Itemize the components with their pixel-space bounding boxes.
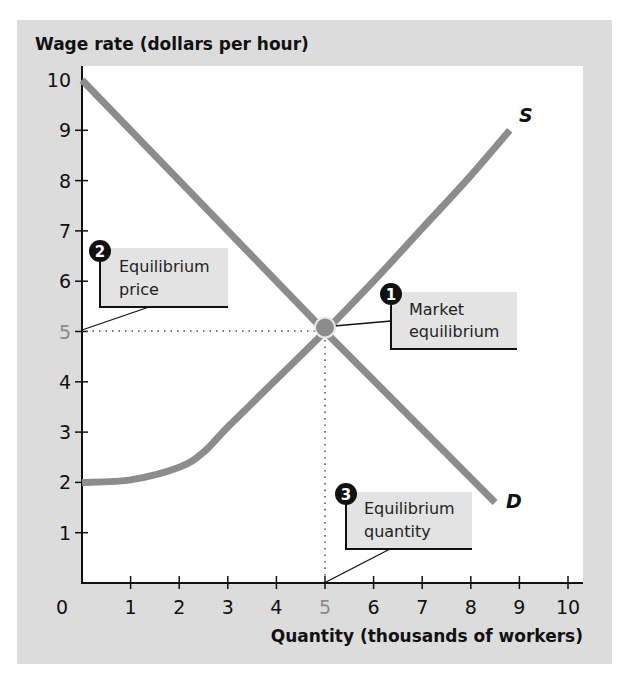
x-tick-label: 8	[465, 596, 477, 618]
y-tick-label: 5	[59, 321, 71, 343]
y-tick-label: 8	[59, 170, 71, 192]
supply-demand-chart: Wage rate (dollars per hour) 12345678910…	[0, 0, 629, 687]
y-tick-label: 2	[59, 471, 71, 493]
y-axis-title: Wage rate (dollars per hour)	[35, 34, 309, 54]
y-tick-label: 1	[59, 522, 71, 544]
y-tick-label: 10	[47, 69, 71, 91]
x-tick-label: 5	[319, 596, 331, 618]
x-tick-label: 9	[513, 596, 525, 618]
demand-curve-label: D	[506, 490, 522, 512]
x-tick-label: 3	[222, 596, 234, 618]
supply-curve-label: S	[519, 104, 533, 126]
callout-text-line1: Market	[409, 300, 464, 319]
callout-text-line1: Equilibrium	[364, 499, 455, 518]
y-tick-label: 7	[59, 220, 71, 242]
y-tick-label: 3	[59, 421, 71, 443]
x-tick-label: 4	[270, 596, 282, 618]
x-tick-label: 10	[556, 596, 580, 618]
y-tick-label: 9	[59, 119, 71, 141]
callout-text-line2: quantity	[364, 522, 431, 541]
x-tick-label: 2	[173, 596, 185, 618]
x-tick-label: 1	[125, 596, 137, 618]
x-tick-label: 6	[368, 596, 380, 618]
equilibrium-point	[315, 318, 335, 338]
callout-badge-number: 1	[386, 286, 396, 304]
callout-text-line1: Equilibrium	[119, 257, 210, 276]
callout-text-line2: equilibrium	[409, 322, 499, 341]
y-tick-label: 6	[59, 270, 71, 292]
x-axis-title: Quantity (thousands of workers)	[271, 626, 583, 646]
callout-text-line2: price	[119, 280, 159, 299]
x-tick-label: 7	[416, 596, 428, 618]
y-tick-label: 4	[59, 371, 71, 393]
x-tick-label: 0	[56, 596, 68, 618]
callout-badge-number: 2	[95, 243, 105, 261]
callout-badge-number: 3	[341, 486, 351, 504]
